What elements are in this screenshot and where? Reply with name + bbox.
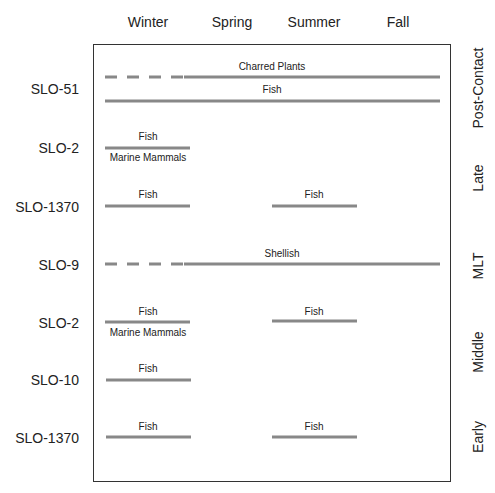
resource-label: Fish [139, 421, 158, 432]
site-label: SLO-2 [39, 315, 79, 331]
season-bar [184, 76, 440, 79]
uncertain-bar [105, 263, 183, 266]
resource-label: Fish [139, 306, 158, 317]
site-label: SLO-1370 [15, 430, 79, 446]
resource-label: Marine Mammals [110, 327, 187, 338]
site-label: SLO-2 [39, 140, 79, 156]
season-bar [272, 436, 357, 439]
site-label: SLO-1370 [15, 199, 79, 215]
resource-label: Fish [305, 306, 324, 317]
season-bar [105, 321, 190, 324]
period-label: Middle [470, 331, 486, 372]
season-winter: Winter [128, 14, 168, 30]
season-fall: Fall [387, 14, 410, 30]
resource-label: Fish [139, 363, 158, 374]
resource-label: Marine Mammals [110, 152, 187, 163]
season-spring: Spring [212, 14, 252, 30]
season-bar [105, 100, 440, 103]
period-label: Late [470, 164, 486, 191]
season-summer: Summer [288, 14, 341, 30]
season-bar [184, 263, 440, 266]
resource-label: Charred Plants [239, 61, 306, 72]
season-bar [272, 320, 357, 323]
site-label: SLO-9 [39, 257, 79, 273]
season-bar [106, 379, 191, 382]
resource-label: Fish [139, 189, 158, 200]
resource-label: Fish [139, 131, 158, 142]
resource-label: Fish [263, 84, 282, 95]
site-label: SLO-51 [31, 81, 79, 97]
period-label: Early [470, 421, 486, 453]
resource-label: Shellish [264, 248, 299, 259]
season-bar [272, 205, 357, 208]
period-label: MLT [470, 253, 486, 280]
resource-label: Fish [305, 189, 324, 200]
season-bar [105, 147, 190, 150]
season-bar [106, 436, 191, 439]
resource-label: Fish [305, 421, 324, 432]
season-bar [105, 205, 190, 208]
uncertain-bar [105, 76, 183, 79]
period-label: Post-Contact [470, 48, 486, 129]
site-label: SLO-10 [31, 372, 79, 388]
